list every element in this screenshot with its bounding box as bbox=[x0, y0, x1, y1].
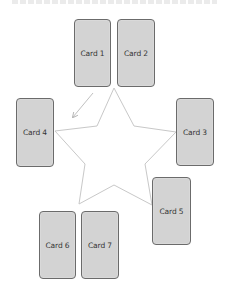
card-3[interactable]: Card 3 bbox=[176, 98, 214, 166]
clipped-header-text bbox=[12, 0, 217, 4]
card-4[interactable]: Card 4 bbox=[16, 98, 54, 167]
card-label: Card 3 bbox=[183, 128, 207, 137]
card-1[interactable]: Card 1 bbox=[74, 19, 111, 87]
card-label: Card 4 bbox=[23, 128, 47, 137]
card-label: Card 6 bbox=[45, 241, 69, 250]
card-label: Card 7 bbox=[88, 241, 112, 250]
card-label: Card 1 bbox=[80, 49, 104, 58]
card-label: Card 5 bbox=[159, 207, 183, 216]
card-label: Card 2 bbox=[124, 49, 148, 58]
card-2[interactable]: Card 2 bbox=[117, 19, 155, 87]
arrow-connector bbox=[73, 93, 93, 117]
card-7[interactable]: Card 7 bbox=[81, 211, 119, 279]
card-6[interactable]: Card 6 bbox=[39, 211, 76, 279]
card-5[interactable]: Card 5 bbox=[152, 177, 191, 245]
